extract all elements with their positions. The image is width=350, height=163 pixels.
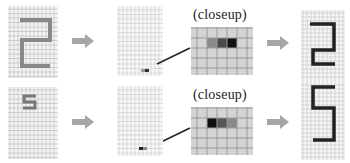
arrow-icon (72, 34, 94, 48)
arrow-icon (267, 36, 289, 50)
arrow-icon (72, 115, 94, 129)
closeup-label: (closeup) (193, 7, 247, 23)
arrow-icon (267, 115, 289, 129)
closeup-grid-digit-2 (191, 27, 271, 79)
closeup-label: (closeup) (193, 87, 247, 103)
closeup-grid-digit-5 (191, 107, 271, 159)
pen-state-grid-digit-2 (117, 6, 163, 76)
output-grid-digit-2 (301, 10, 345, 82)
input-grid-digit-2 (8, 6, 58, 78)
input-grid-digit-5 (8, 87, 58, 159)
output-grid-digit-5 (301, 82, 345, 160)
pen-state-grid-digit-5 (117, 86, 163, 156)
